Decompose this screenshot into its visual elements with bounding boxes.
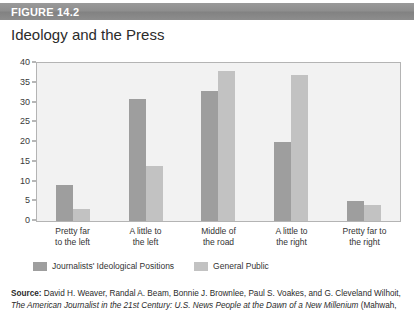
y-axis-tick-label: 15 <box>20 156 30 166</box>
chart-legend: Journalists' Ideological PositionsGenera… <box>33 261 269 271</box>
legend-label: Journalists' Ideological Positions <box>52 261 174 271</box>
x-axis-category-label: A little tothe left <box>112 226 180 247</box>
x-axis-category-label-line: Pretty far <box>39 226 107 237</box>
x-axis-category-label-line: the left <box>112 237 180 248</box>
bar <box>218 71 235 221</box>
bar <box>73 209 90 221</box>
x-axis-category-label-line: Middle of <box>185 226 253 237</box>
chart-title: Ideology and the Press <box>11 26 164 43</box>
bar <box>364 205 381 221</box>
figure-number-label: FIGURE 14.2 <box>0 6 79 18</box>
x-axis-category-label-line: to the left <box>39 237 107 248</box>
x-axis-category-label-line: Pretty far to <box>331 226 399 237</box>
x-axis-category-label: Pretty far tothe right <box>331 226 399 247</box>
bar <box>146 166 163 221</box>
x-axis-category-label-line: the right <box>331 237 399 248</box>
bar <box>56 185 73 221</box>
legend-label: General Public <box>213 261 269 271</box>
y-axis-tick-label: 35 <box>20 77 30 87</box>
y-axis-tick-label: 40 <box>20 57 30 67</box>
y-axis-tick-label: 0 <box>25 215 30 225</box>
x-axis-category-label: Pretty farto the left <box>39 226 107 247</box>
x-axis-category-label: Middle ofthe road <box>185 226 253 247</box>
legend-color-swatch <box>194 262 208 271</box>
y-axis: 0510152025303540 <box>0 55 36 229</box>
x-axis-category-label-line: the right <box>258 237 326 248</box>
bar <box>201 91 218 221</box>
y-axis-tick-label: 20 <box>20 136 30 146</box>
source-trailing: (Mahwah, <box>358 301 396 310</box>
source-label: Source: <box>11 289 41 298</box>
source-note: Source: David H. Weaver, Randal A. Beam,… <box>11 288 409 311</box>
bar <box>274 142 291 221</box>
bar-group <box>347 63 381 221</box>
figure-header-bar: FIGURE 14.2 <box>0 3 414 20</box>
bar-group <box>274 63 308 221</box>
source-authors: David H. Weaver, Randal A. Beam, Bonnie … <box>41 289 400 298</box>
legend-item: General Public <box>194 261 269 271</box>
bar <box>129 99 146 221</box>
plot-area <box>36 62 401 222</box>
bar <box>291 75 308 221</box>
legend-color-swatch <box>33 262 47 271</box>
y-axis-tick-label: 5 <box>25 195 30 205</box>
x-axis-category-label-line: A little to <box>112 226 180 237</box>
x-axis-labels: Pretty farto the leftA little tothe left… <box>36 226 401 247</box>
x-axis-category-label: A little tothe right <box>258 226 326 247</box>
bar <box>347 201 364 221</box>
y-axis-tick-label: 10 <box>20 176 30 186</box>
bar-group <box>56 63 90 221</box>
x-axis-category-label-line: A little to <box>258 226 326 237</box>
bar-group <box>129 63 163 221</box>
source-publication-title: The American Journalist in the 21st Cent… <box>11 301 358 310</box>
bar-group <box>201 63 235 221</box>
y-axis-tick-label: 25 <box>20 116 30 126</box>
y-axis-tick-label: 30 <box>20 97 30 107</box>
x-axis-category-label-line: the road <box>185 237 253 248</box>
legend-item: Journalists' Ideological Positions <box>33 261 174 271</box>
bars-layer <box>37 63 400 221</box>
